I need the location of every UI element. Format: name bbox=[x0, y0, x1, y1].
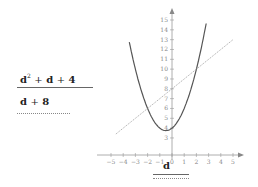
x-tick-label: −2 bbox=[143, 158, 152, 165]
y-tick-label: 9 bbox=[164, 75, 168, 82]
y-tick-label: 13 bbox=[160, 36, 168, 43]
x-tick-label: 1 bbox=[182, 158, 186, 165]
function-graph: −5−4−3−2−1012345 3456789101112131415 bbox=[0, 0, 258, 187]
x-tick-label: 4 bbox=[219, 158, 223, 165]
x-axis-arrow-icon bbox=[238, 153, 244, 158]
answer-variable: d bbox=[163, 160, 170, 171]
y-axis bbox=[170, 8, 175, 160]
x-tick-label: 5 bbox=[231, 158, 235, 165]
x-tick-label: 3 bbox=[207, 158, 211, 165]
y-tick-label: 14 bbox=[160, 26, 168, 33]
y-tick-label: 7 bbox=[164, 95, 168, 102]
y-tick-label: 10 bbox=[160, 65, 168, 72]
y-tick-label: 3 bbox=[164, 134, 168, 141]
y-tick-label: 5 bbox=[164, 114, 168, 121]
y-tick-label: 11 bbox=[160, 55, 168, 62]
variable-d: d bbox=[163, 160, 170, 171]
linear-line bbox=[116, 40, 233, 134]
y-tick-label: 6 bbox=[164, 104, 168, 111]
x-tick-label: −3 bbox=[131, 158, 140, 165]
x-tick-label: 2 bbox=[194, 158, 198, 165]
y-tick-label: 12 bbox=[160, 45, 168, 52]
y-tick-label: 15 bbox=[160, 16, 168, 23]
y-axis-arrow-icon bbox=[170, 8, 175, 14]
y-tick-label: 8 bbox=[164, 85, 168, 92]
x-tick-label: −5 bbox=[107, 158, 116, 165]
answer-solid-line[interactable] bbox=[153, 174, 189, 175]
x-tick-label: −4 bbox=[119, 158, 128, 165]
answer-dotted-line[interactable] bbox=[153, 178, 189, 179]
x-axis bbox=[97, 153, 244, 158]
x-tick-label: 0 bbox=[170, 158, 174, 165]
